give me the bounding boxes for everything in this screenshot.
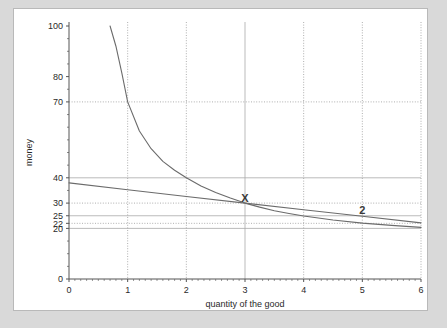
curve-2-label: 2: [359, 204, 365, 216]
y-tick-label-25: 25: [53, 211, 63, 221]
x-tick-label-4: 4: [301, 285, 306, 295]
y-tick-label-40: 40: [53, 173, 63, 183]
y-tick-label-80: 80: [53, 72, 63, 82]
y-tick-label-100: 100: [48, 21, 63, 31]
x-tick-label-3: 3: [242, 285, 247, 295]
y-tick-label-30: 30: [53, 198, 63, 208]
x-axis-title: quantity of the good: [205, 299, 284, 309]
point-x-label: X: [241, 192, 249, 204]
x-tick-label-0: 0: [66, 285, 71, 295]
series-indifference-curve: [110, 26, 421, 227]
chart-canvas: 0202225304070801000123456quantity of the…: [14, 9, 427, 310]
x-tick-label-1: 1: [125, 285, 130, 295]
y-axis-title: money: [24, 138, 34, 166]
y-tick-label-70: 70: [53, 97, 63, 107]
x-tick-label-5: 5: [360, 285, 365, 295]
x-tick-label-6: 6: [418, 285, 423, 295]
chart-panel: 0202225304070801000123456quantity of the…: [13, 8, 428, 311]
y-tick-label-0: 0: [58, 274, 63, 284]
x-tick-label-2: 2: [184, 285, 189, 295]
